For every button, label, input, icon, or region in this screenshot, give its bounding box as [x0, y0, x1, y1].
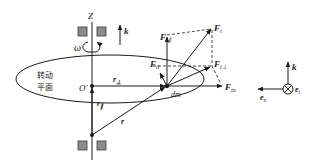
fin-label: Fin [224, 82, 236, 93]
r-label: r [121, 117, 125, 126]
bottom-bearing-right [97, 141, 106, 150]
rotating-body-inertial-force-diagram: Z ω k 转动 平面 O′ r⊥ r∥ r dm Fi Fi∥ Fi⊥ Fin… [0, 0, 313, 164]
fi-label: Fi [213, 23, 222, 34]
plane-label-line1: 转动 [37, 70, 53, 80]
fit-vector [160, 73, 167, 86]
fi-perp-label: Fi⊥ [213, 59, 227, 70]
r-par-label: r∥ [97, 99, 104, 110]
r-perp-label: r⊥ [113, 75, 121, 85]
omega-label: ω [74, 42, 81, 53]
top-bearing-right [97, 27, 106, 36]
fit-label: Fit [149, 59, 160, 70]
omega-rotation-arrow [83, 42, 100, 52]
bottom-bearing-left [78, 141, 87, 150]
z-axis-label: Z [88, 11, 94, 21]
k-label: k [124, 26, 129, 36]
fi-par-label: Fi∥ [159, 32, 172, 44]
r-vector [92, 87, 165, 135]
origin-label: O′ [79, 83, 88, 93]
dashed-fipar-to-fi [167, 29, 211, 35]
dm-label: dm [171, 90, 181, 99]
plane-label-line2: 平面 [37, 83, 53, 92]
frame-k-label: k [292, 62, 297, 72]
fi-vector [167, 29, 211, 86]
frame-en-label: en [260, 93, 267, 103]
top-bearing-left [78, 27, 87, 36]
frame-et-label: et [295, 85, 301, 95]
local-coordinate-frame: k et en [258, 62, 301, 103]
